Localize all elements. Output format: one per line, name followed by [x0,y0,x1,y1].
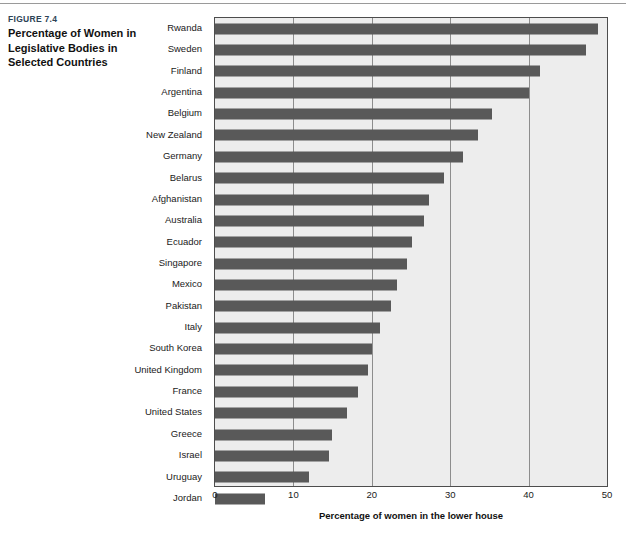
bar [215,301,391,312]
y-axis-label: Germany [120,145,208,166]
y-axis-label: Israel [120,444,208,465]
y-axis-label: South Korea [120,337,208,358]
y-axis-label: New Zealand [120,124,208,145]
bar [215,258,407,269]
bar-row [215,360,607,381]
y-axis-label: Rwanda [120,17,208,38]
bar-chart-plot-area [214,17,608,487]
bar-row [215,381,607,402]
x-axis-tick-20: 20 [367,489,378,500]
bar [215,215,424,226]
y-axis-label: Belarus [120,167,208,188]
bar-row [215,210,607,231]
bar [215,344,372,355]
bar [215,237,412,248]
bar-row [215,125,607,146]
x-axis-tick-0: 0 [212,489,217,500]
bar-row [215,253,607,274]
y-axis-label: Greece [120,423,208,444]
bar [215,450,329,461]
bar [215,23,598,34]
bar [215,408,347,419]
bar-row [215,338,607,359]
y-axis-label: United Kingdom [120,359,208,380]
bar [215,45,586,56]
bar-rows [215,18,607,486]
bar-row [215,103,607,124]
y-axis-label: France [120,380,208,401]
y-axis-label: Italy [120,316,208,337]
bar-row [215,402,607,423]
bar [215,151,463,162]
x-axis-tick-labels: 01020304050 [214,489,608,503]
x-axis-tick-10: 10 [288,489,299,500]
bar-row [215,146,607,167]
bar-row [215,467,607,488]
bar-row [215,296,607,317]
top-divider-rule [0,3,626,4]
bar-row [215,445,607,466]
y-axis-label: Afghanistan [120,188,208,209]
x-axis-title: Percentage of women in the lower house [214,510,608,521]
bar [215,194,429,205]
y-axis-label: Argentina [120,81,208,102]
bar [215,279,397,290]
y-axis-label: Ecuador [120,231,208,252]
bar [215,365,368,376]
bar [215,386,358,397]
x-axis-tick-30: 30 [445,489,456,500]
bar-row [215,39,607,60]
bar-row [215,168,607,189]
bar-row [215,18,607,39]
bar [215,173,444,184]
bar [215,472,309,483]
y-axis-label: Belgium [120,102,208,123]
bar [215,130,478,141]
y-axis-label: Jordan [120,487,208,508]
bar [215,87,529,98]
y-axis-label: Uruguay [120,466,208,487]
y-axis-label: Finland [120,60,208,81]
y-axis-label: Sweden [120,38,208,59]
bar-row [215,189,607,210]
bar-row [215,274,607,295]
bar-row [215,424,607,445]
x-axis-tick-40: 40 [523,489,534,500]
y-axis-category-labels: RwandaSwedenFinlandArgentinaBelgiumNew Z… [120,17,208,487]
bar-row [215,61,607,82]
bar [215,429,332,440]
bar-row [215,82,607,103]
bar [215,322,380,333]
bar [215,109,492,120]
y-axis-label: Singapore [120,252,208,273]
x-axis-tick-50: 50 [602,489,613,500]
y-axis-label: Pakistan [120,295,208,316]
y-axis-label: Mexico [120,273,208,294]
y-axis-label: Australia [120,209,208,230]
y-axis-label: United States [120,401,208,422]
bar-row [215,317,607,338]
bar-row [215,232,607,253]
bar [215,66,540,77]
